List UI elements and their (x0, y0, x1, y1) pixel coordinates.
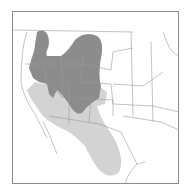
range-map (13, 12, 179, 184)
map-frame (12, 11, 179, 184)
